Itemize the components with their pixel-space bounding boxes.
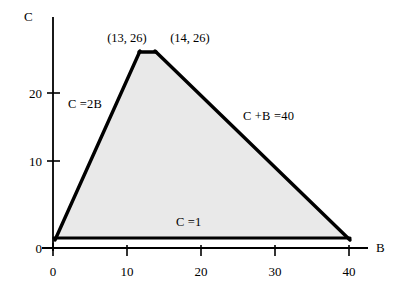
annotation-c-eq-1: C =1 (176, 216, 202, 229)
x-tick-label-30: 30 (269, 265, 282, 278)
y-tick-label-20: 20 (12, 87, 42, 100)
y-axis-title: C (24, 10, 33, 23)
vertex-label-left: (13, 26) (107, 32, 147, 45)
vertex-label-right: (14, 26) (170, 32, 210, 45)
graph-figure: C B 20 10 0 0 10 20 30 40 (13, 26) (14, … (0, 0, 407, 294)
x-tick-label-0: 0 (50, 265, 57, 278)
x-tick-label-10: 10 (121, 265, 134, 278)
annotation-c-eq-2b: C =2B (68, 98, 102, 111)
annotation-c-plus-b-eq-40: C +B =40 (243, 110, 294, 123)
y-tick-label-10: 10 (12, 155, 42, 168)
x-axis-title: B (376, 241, 385, 254)
y-tick-label-0: 0 (12, 242, 42, 255)
feasible-region-fill (56, 51, 349, 238)
x-tick-label-20: 20 (195, 265, 208, 278)
x-tick-label-40: 40 (343, 265, 356, 278)
